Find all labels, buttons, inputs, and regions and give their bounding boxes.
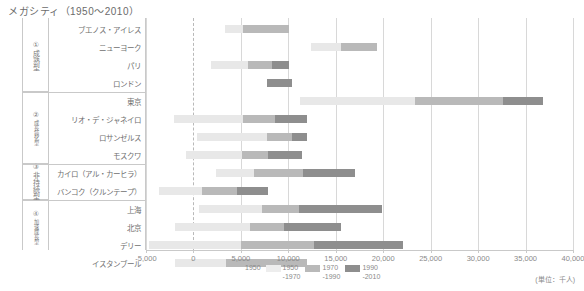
x-tick-label-5000: 5,000 <box>231 254 250 263</box>
bar-segment-1990-2010 <box>299 205 383 213</box>
city-row-label[interactable]: イスタンブール <box>49 254 145 272</box>
bar-segment-1970-1990 <box>248 61 272 69</box>
x-tick-20000 <box>383 250 384 253</box>
x-axis-line <box>146 250 573 251</box>
bar-segment-1970-1990 <box>243 115 275 123</box>
bar-row[interactable] <box>146 146 573 164</box>
x-tick-15000 <box>336 250 337 253</box>
bar-segment-1970-1990 <box>241 241 314 249</box>
city-row-label[interactable]: 上海 <box>49 200 145 218</box>
city-label: 東京 <box>127 96 141 107</box>
legend-label: 1970 -1990 <box>322 264 340 282</box>
bar-row[interactable] <box>146 56 573 74</box>
bar-row[interactable] <box>146 128 573 146</box>
group-number: ② <box>33 111 39 118</box>
x-tick-label--5000: -5,000 <box>135 254 156 263</box>
bar-segment-1950-1970 <box>311 43 340 51</box>
x-tick-40000 <box>573 250 574 253</box>
city-row-label[interactable]: 北京 <box>49 218 145 236</box>
group-block-3: ③非持続型 <box>23 164 49 200</box>
city-label: イスタンブール <box>92 258 141 269</box>
bar-segment-1950-1970 <box>159 187 202 195</box>
x-tick-label-40000: 40,000 <box>562 254 584 263</box>
city-label: カイロ（アル・カーヒラ） <box>57 168 141 179</box>
bar-row[interactable] <box>146 218 573 236</box>
bar-segment-1950-1970 <box>186 151 242 159</box>
x-tick--5000 <box>146 250 147 253</box>
city-row-label[interactable]: 東京 <box>49 92 145 110</box>
bar-segment-1970-1990 <box>242 151 269 159</box>
city-row-label[interactable]: リオ・デ・ジャネイロ <box>49 110 145 128</box>
bar-segment-1970-1990 <box>415 97 502 105</box>
bar-segment-1970-1990 <box>250 223 283 231</box>
city-row-label[interactable]: モスクワ <box>49 146 145 164</box>
group-name: 成熟型 <box>32 50 39 71</box>
bar-row[interactable] <box>146 20 573 38</box>
city-row-label[interactable]: デリー <box>49 236 145 254</box>
bar-segment-1990-2010 <box>272 61 289 69</box>
legend-label: 1990 -2010 <box>362 264 380 282</box>
x-tick-0 <box>193 250 194 253</box>
group-name: 成長鈍化型 <box>33 120 38 145</box>
city-label: 上海 <box>127 204 141 215</box>
legend-item-1970-1990: 1970 -1990 <box>305 264 340 282</box>
city-row-label[interactable]: ロンドン <box>49 74 145 92</box>
city-label: ロンドン <box>113 78 141 89</box>
bar-segment-1990-2010 <box>314 241 403 249</box>
bar-segment-1990-2010 <box>268 151 301 159</box>
legend-swatch <box>305 265 320 272</box>
group-name: 非持続型 <box>32 172 39 200</box>
bar-segment-1970-1990 <box>341 43 377 51</box>
city-label: ブエノス・アイレス <box>78 24 141 35</box>
city-row-label[interactable]: バンコク（クルンテープ） <box>49 182 145 200</box>
bar-segment-1950-1970 <box>149 241 241 249</box>
chart-grid-area <box>146 18 573 250</box>
city-label: 北京 <box>127 222 141 233</box>
x-tick-10000 <box>288 250 289 253</box>
x-tick-label-20000: 20,000 <box>372 254 395 263</box>
bar-row[interactable] <box>146 92 573 110</box>
bar-segment-1950-1970 <box>174 115 242 123</box>
bar-row[interactable] <box>146 38 573 56</box>
bar-segment-1990-2010 <box>267 79 293 87</box>
city-row-label[interactable]: ロサンゼルス <box>49 128 145 146</box>
legend-item-1950: 1950 <box>245 264 261 273</box>
bar-segment-1990-2010 <box>303 169 355 177</box>
gridline-40000 <box>573 18 574 250</box>
bar-segment-1950-1970 <box>300 97 416 105</box>
bar-segment-1950-1970 <box>175 223 250 231</box>
legend-swatch <box>345 265 360 272</box>
bar-row[interactable] <box>146 110 573 128</box>
legend-swatch <box>266 265 281 272</box>
legend-item-1950-1970: 1950 -1970 <box>266 264 301 282</box>
group-column: ①成熟型②成長鈍化型③非持続型④加速成長型 <box>23 18 49 250</box>
bar-row[interactable] <box>146 164 573 182</box>
bar-segment-1990-2010 <box>292 133 307 141</box>
bar-segment-1990-2010 <box>284 223 342 231</box>
bar-row[interactable] <box>146 74 573 92</box>
row-label-column: ①成熟型②成長鈍化型③非持続型④加速成長型 ブエノス・アイレスニューヨークパリロ… <box>22 18 146 250</box>
x-tick-35000 <box>526 250 527 253</box>
city-row-label[interactable]: ブエノス・アイレス <box>49 20 145 38</box>
bar-segment-1990-2010 <box>237 187 268 195</box>
city-row-label[interactable]: パリ <box>49 56 145 74</box>
bar-segment-1950-1970 <box>216 169 254 177</box>
bar-segment-1970-1990 <box>243 25 289 33</box>
legend-item-1990-2010: 1990 -2010 <box>345 264 380 282</box>
bar-row[interactable] <box>146 236 573 254</box>
city-label: モスクワ <box>113 150 141 161</box>
bar-segment-1950-1970 <box>197 133 267 141</box>
bar-row[interactable] <box>146 200 573 218</box>
x-tick-label-25000: 25,000 <box>419 254 442 263</box>
city-row-label[interactable]: ニューヨーク <box>49 38 145 56</box>
x-tick-label-30000: 30,000 <box>467 254 490 263</box>
city-row-label[interactable]: カイロ（アル・カーヒラ） <box>49 164 145 182</box>
bar-segment-1970-1990 <box>267 133 292 141</box>
chart-plot-frame: ①成熟型②成長鈍化型③非持続型④加速成長型 ブエノス・アイレスニューヨークパリロ… <box>22 18 573 250</box>
bar-segment-1970-1990 <box>262 205 299 213</box>
city-label: デリー <box>120 240 141 251</box>
bar-segment-1990-2010 <box>275 115 307 123</box>
bar-segment-1970-1990 <box>202 187 237 195</box>
bar-row[interactable] <box>146 182 573 200</box>
chart-legend: 19501950 -19701970 -19901990 -2010 <box>245 264 380 282</box>
